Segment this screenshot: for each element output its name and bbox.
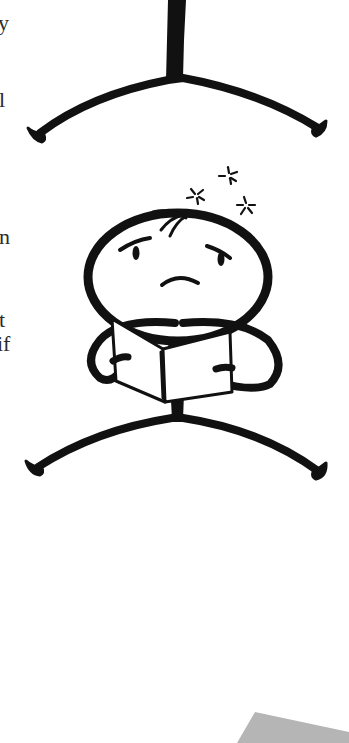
upper-figure-torso — [166, 0, 186, 80]
book-page: y l n t if — [0, 0, 349, 743]
dizzy-stars-icon — [187, 167, 255, 214]
stick-figure-illustration — [0, 0, 349, 743]
right-hand — [216, 367, 232, 369]
right-eye — [218, 252, 225, 266]
gray-page-shape — [237, 712, 349, 743]
confused-reader-figure — [26, 167, 326, 479]
lower-figure-legs — [38, 418, 318, 471]
left-eye — [133, 246, 140, 260]
upper-stick-figure — [28, 0, 326, 142]
upper-figure-legs — [40, 78, 318, 133]
